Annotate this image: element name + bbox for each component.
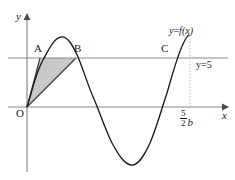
point-label-a: A bbox=[34, 43, 42, 54]
fraction-numerator: 5 bbox=[180, 109, 187, 118]
y-axis-arrowhead bbox=[24, 13, 31, 20]
curve-label-arg: (x) bbox=[182, 25, 193, 36]
point-label-b: B bbox=[74, 43, 81, 54]
tick-symbol-b: b bbox=[188, 116, 194, 128]
figure-canvas bbox=[0, 0, 235, 180]
line-equation-label: y=5 bbox=[196, 60, 212, 70]
x-axis-label: x bbox=[222, 110, 227, 121]
curve-equation-label: y=f(x) bbox=[169, 26, 193, 36]
fraction-denominator: 2 bbox=[180, 118, 187, 128]
curve-y-equals-f-of-x bbox=[27, 35, 189, 165]
fraction-five-halves: 5 2 bbox=[180, 109, 187, 128]
origin-label: O bbox=[16, 108, 24, 119]
math-figure: y x O A B C y=f(x) y=5 5 2 b bbox=[0, 0, 235, 180]
x-tick-label-5b-over-2: 5 2 b bbox=[180, 110, 193, 129]
point-label-c: C bbox=[161, 43, 168, 54]
y-axis-label: y bbox=[16, 11, 21, 22]
